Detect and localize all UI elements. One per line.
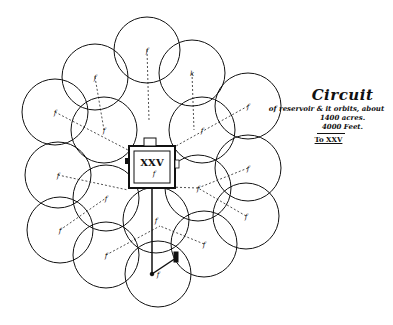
side-structure <box>175 160 179 168</box>
circle-center-mark: f <box>53 109 58 117</box>
circle-center-mark: f <box>102 127 107 135</box>
circle-center-mark: k <box>190 70 194 78</box>
legend-distance: 4000 Feet. <box>292 122 393 131</box>
dashed-line <box>198 188 246 216</box>
dashed-line <box>55 112 128 150</box>
dashed-line <box>60 198 106 230</box>
legend-area: 1400 acres. <box>292 113 393 122</box>
circle-center-mark: f <box>244 213 249 221</box>
circle-center-mark: f <box>93 74 98 82</box>
circle-center-mark: f <box>104 195 109 203</box>
junction <box>150 272 154 276</box>
circle-center-mark: f <box>156 271 161 279</box>
circle-center-mark: f <box>246 103 251 111</box>
dashed-line <box>160 226 204 244</box>
dashed-line <box>192 73 194 130</box>
branch-pipe <box>152 258 176 274</box>
scale-bar <box>317 133 345 134</box>
circle-center-mark: f <box>145 47 150 55</box>
dashed-line <box>176 106 248 146</box>
side-structure <box>125 158 129 164</box>
circle-center-mark: f <box>58 227 63 235</box>
gatehouse <box>144 138 156 146</box>
circle-center-mark: f <box>104 252 109 260</box>
legend: Circuit of reservoir & it orbits, about … <box>292 86 393 144</box>
dashed-line <box>58 175 128 190</box>
circle-center-mark: f <box>246 165 251 173</box>
circle-center-mark: f <box>154 217 159 225</box>
circle-center-mark: f <box>56 172 61 180</box>
legend-description: of reservoir & it orbits, about <box>260 104 393 113</box>
scale-label: To XXV <box>278 135 379 144</box>
reservoir-circuit-diagram: fkfffffffffffffff XXV f <box>0 0 393 325</box>
circle-center-mark: f <box>202 241 207 249</box>
dashed-line <box>147 50 149 120</box>
reservoir-label: XXV <box>140 157 164 168</box>
central-reservoir: XXV f <box>125 138 179 188</box>
legend-title: Circuit <box>292 86 393 104</box>
circle-center-mark: f <box>200 127 205 135</box>
valve <box>174 252 178 262</box>
dashed-line <box>95 77 104 130</box>
dashed-line <box>198 168 248 188</box>
